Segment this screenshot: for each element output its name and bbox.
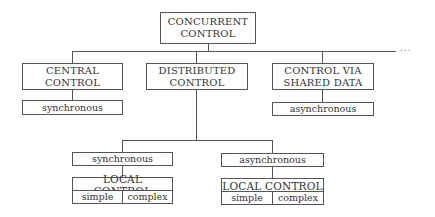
connector bbox=[196, 90, 197, 140]
connector bbox=[322, 90, 323, 102]
node-label-line1: CONCURRENT bbox=[168, 16, 248, 28]
local-control-options: simple complex bbox=[221, 191, 324, 205]
node-label-line2: CONTROL bbox=[45, 77, 100, 89]
node-label: asynchronous bbox=[239, 154, 306, 166]
distributed-synchronous-node: synchronous bbox=[72, 152, 173, 166]
connector bbox=[122, 140, 123, 152]
distributed-control-node: DISTRIBUTED CONTROL bbox=[146, 63, 248, 90]
concurrent-control-node: CONCURRENT CONTROL bbox=[160, 12, 256, 44]
option-complex: complex bbox=[123, 191, 172, 203]
local-control-node: LOCAL CONTROL bbox=[72, 177, 173, 191]
connector bbox=[72, 51, 73, 63]
node-label-line1: DISTRIBUTED bbox=[159, 65, 236, 77]
connector bbox=[72, 90, 73, 100]
connector bbox=[272, 140, 273, 153]
node-label: synchronous bbox=[92, 153, 153, 165]
node-label-line2: CONTROL bbox=[169, 77, 224, 89]
node-label-line2: SHARED DATA bbox=[283, 77, 362, 89]
connector bbox=[72, 51, 396, 52]
connector bbox=[272, 167, 273, 178]
option-simple: simple bbox=[222, 192, 273, 204]
node-label-line2: CONTROL bbox=[180, 28, 235, 40]
node-label: LOCAL CONTROL bbox=[222, 180, 322, 192]
shared-data-control-node: CONTROL VIA SHARED DATA bbox=[272, 63, 374, 90]
local-control-node: LOCAL CONTROL bbox=[221, 178, 324, 192]
local-control-options: simple complex bbox=[72, 190, 173, 204]
node-label-line1: CENTRAL bbox=[46, 65, 99, 77]
connector bbox=[322, 51, 323, 63]
connector bbox=[196, 51, 197, 63]
option-simple: simple bbox=[73, 191, 123, 203]
distributed-asynchronous-node: asynchronous bbox=[221, 153, 324, 167]
node-label: asynchronous bbox=[290, 103, 357, 115]
connector bbox=[208, 44, 209, 51]
connector bbox=[122, 140, 273, 141]
central-control-node: CENTRAL CONTROL bbox=[22, 63, 123, 90]
central-synchronous-node: synchronous bbox=[22, 100, 123, 115]
node-label: synchronous bbox=[42, 102, 103, 114]
shared-asynchronous-node: asynchronous bbox=[272, 102, 374, 116]
ellipsis: ... bbox=[400, 43, 412, 53]
node-label-line1: CONTROL VIA bbox=[284, 65, 361, 77]
option-complex: complex bbox=[273, 192, 323, 204]
